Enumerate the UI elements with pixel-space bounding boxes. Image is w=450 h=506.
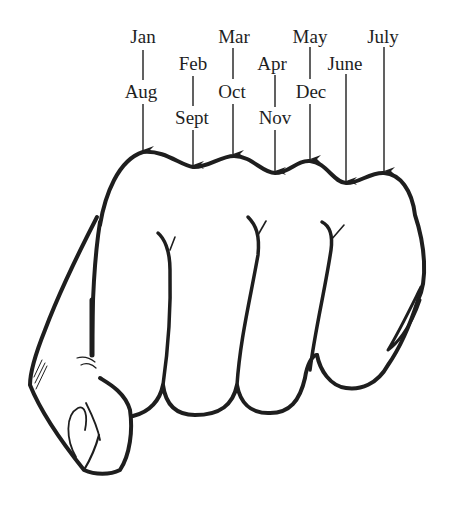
finger-crease-1-tick	[170, 237, 175, 250]
thumb-outline	[30, 217, 131, 474]
finger-crease-2-tick	[258, 221, 266, 235]
fist-diagram	[0, 0, 450, 506]
finger-crease-1	[158, 233, 170, 385]
thumb-nail-line	[86, 403, 100, 440]
label-june: June	[328, 54, 363, 73]
finger-crease-3	[310, 222, 332, 370]
label-sept: Sept	[175, 108, 209, 127]
fist-outline	[30, 152, 424, 474]
label-jan: Jan	[130, 27, 155, 46]
label-mar: Mar	[218, 27, 250, 46]
pinky-inner-line	[388, 287, 421, 350]
label-dec: Dec	[296, 82, 327, 101]
thumb-wrinkle-2	[81, 364, 96, 368]
label-oct: Oct	[218, 82, 245, 101]
finger-crease-3-tick	[331, 225, 344, 240]
label-feb: Feb	[179, 54, 208, 73]
thumb-tip-line	[84, 435, 99, 470]
thumb-wrinkle-1	[77, 357, 95, 362]
label-july: July	[367, 27, 399, 46]
label-apr: Apr	[257, 54, 287, 73]
label-may: May	[293, 27, 328, 46]
hand-outline	[100, 152, 424, 389]
label-aug: Aug	[125, 82, 158, 101]
thumb-nail	[68, 407, 86, 457]
label-nov: Nov	[259, 108, 292, 127]
finger-bottoms	[133, 355, 317, 416]
finger-crease-2	[237, 217, 259, 385]
